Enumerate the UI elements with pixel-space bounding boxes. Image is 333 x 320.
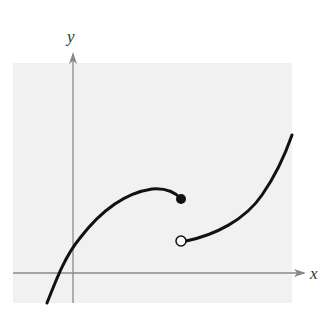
closed-endpoint-dot (176, 194, 186, 204)
open-endpoint-circle (176, 236, 186, 246)
y-axis-label: y (65, 27, 75, 46)
plot-background (13, 63, 292, 303)
x-axis-label: x (309, 264, 318, 283)
function-graph: x y (0, 0, 333, 320)
